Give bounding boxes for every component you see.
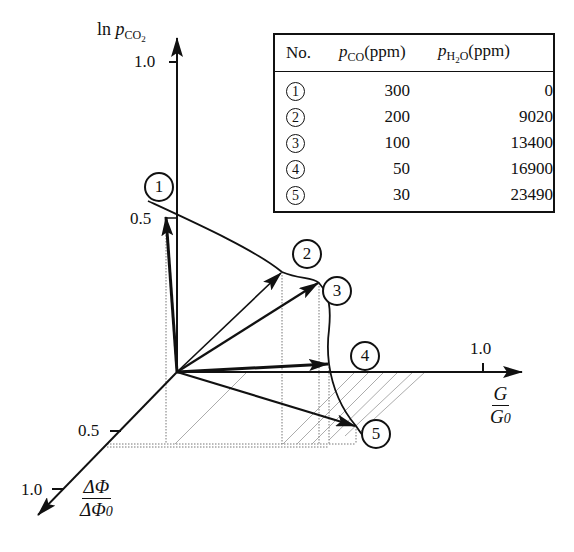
g-den: G	[490, 406, 504, 427]
row-number-badge: 2	[286, 108, 305, 127]
ph2o-sub-h: H	[447, 49, 456, 63]
ph2o-unit: (ppm)	[468, 41, 510, 60]
dphi-den: ΔΦ	[80, 499, 106, 520]
vector-4	[177, 364, 328, 372]
conditions-table: No. pCO(ppm) pH2O(ppm) 1 300 0 2 200 902…	[273, 33, 555, 213]
point-label-4: 4	[350, 341, 380, 371]
header-pco: pCO(ppm)	[327, 42, 432, 65]
depth-tick-05-label: 0.5	[78, 422, 99, 439]
vectors	[166, 217, 355, 426]
row-number-badge: 1	[286, 82, 305, 101]
cell-pco: 50	[327, 159, 432, 179]
table-row: 5 30 23490	[275, 182, 553, 208]
g0-denominator: G0	[490, 406, 511, 427]
ln-prefix: ln	[97, 19, 116, 39]
table-header: No. pCO(ppm) pH2O(ppm)	[275, 35, 553, 72]
row-number-badge: 5	[286, 186, 305, 205]
cell-no: 2	[275, 107, 327, 128]
dphi0-denominator: ΔΦ0	[80, 499, 113, 520]
ph2o-var: p	[438, 41, 447, 60]
cell-pco: 30	[327, 185, 432, 205]
horizontal-axis-label: G G0	[490, 384, 511, 427]
sub-2: 2	[141, 34, 146, 44]
pco-var: p	[339, 42, 348, 61]
vector-1	[166, 217, 177, 372]
row-number-badge: 4	[286, 160, 305, 179]
horizontal-tick-1-label: 1.0	[470, 340, 491, 357]
vector-2	[177, 273, 281, 372]
cell-ph2o: 13400	[432, 133, 553, 153]
cell-no: 3	[275, 133, 327, 154]
point-label-3: 3	[322, 276, 352, 306]
header-ph2o: pH2O(ppm)	[432, 41, 553, 65]
cell-no: 4	[275, 159, 327, 180]
depth-tick-1-label: 1.0	[21, 481, 42, 498]
vertical-tick-1-label: 1.0	[134, 53, 155, 70]
cell-pco: 300	[327, 81, 432, 101]
cell-no: 1	[275, 81, 327, 102]
table-row: 4 50 16900	[275, 156, 553, 182]
dphi-den-sub: 0	[106, 504, 113, 519]
g-den-sub: 0	[504, 411, 511, 426]
depth-axis-label: ΔΦ ΔΦ0	[80, 477, 113, 520]
vector-3	[177, 283, 318, 372]
cell-ph2o: 23490	[432, 185, 553, 205]
sub-co2: CO2	[125, 28, 146, 42]
table-row: 3 100 13400	[275, 130, 553, 156]
cell-ph2o: 16900	[432, 159, 553, 179]
cell-pco: 100	[327, 133, 432, 153]
cell-ph2o: 0	[432, 81, 553, 101]
ph2o-sub: H2O	[447, 49, 469, 63]
point-label-2: 2	[292, 239, 322, 269]
header-no: No.	[275, 43, 327, 63]
table-row: 2 200 9020	[275, 104, 553, 130]
table-body: 1 300 0 2 200 9020 3 100 13400 4 50 1690…	[275, 72, 553, 208]
pco-unit: (ppm)	[364, 42, 406, 61]
vertical-tick-05-label: 0.5	[130, 210, 151, 227]
g-numerator: G	[492, 384, 510, 406]
var-p: p	[116, 19, 125, 39]
cell-pco: 200	[327, 107, 432, 127]
dphi-numerator: ΔΦ	[82, 477, 112, 499]
table-row: 1 300 0	[275, 78, 553, 104]
row-number-badge: 3	[286, 134, 305, 153]
pco-sub: CO	[348, 50, 365, 64]
sub-co: CO	[125, 28, 142, 42]
vertical-axis-label: ln pCO2	[97, 20, 146, 44]
locus-curve	[148, 201, 370, 444]
point-label-1: 1	[144, 172, 174, 202]
cell-ph2o: 9020	[432, 107, 553, 127]
point-label-5: 5	[361, 419, 391, 449]
cell-no: 5	[275, 185, 327, 206]
